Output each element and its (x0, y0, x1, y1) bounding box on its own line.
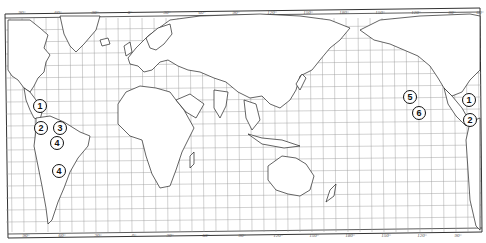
longitude-label: 120° (417, 233, 427, 238)
longitude-label: 90° (233, 10, 240, 15)
longitude-label: 120° (273, 233, 283, 238)
longitude-label: 60° (59, 233, 66, 238)
region-marker-1: 1 (33, 99, 47, 113)
longitude-label: 30° (92, 10, 99, 15)
india (214, 90, 228, 118)
longitude-label: 90° (455, 233, 462, 238)
north-america-east (360, 14, 480, 96)
new-zealand (326, 184, 336, 202)
longitude-label: 120° (411, 10, 421, 15)
longitude-label: 90° (449, 10, 456, 15)
coastlines (8, 14, 480, 230)
south-america-east (466, 118, 480, 230)
region-marker-4b: 4 (52, 164, 66, 178)
southeast-asia (244, 100, 260, 130)
madagascar (190, 152, 194, 168)
longitude-label: 30° (167, 233, 174, 238)
north-america (8, 20, 50, 92)
region-marker-6: 6 (412, 106, 426, 120)
longitude-label: 30° (95, 233, 102, 238)
region-marker-2: 2 (34, 121, 48, 135)
parallel-line (6, 169, 481, 174)
meridian-line (334, 18, 336, 232)
region-marker-3: 3 (53, 121, 67, 135)
longitude-label: 60° (55, 10, 62, 15)
longitude-label: 90° (239, 233, 246, 238)
longitude-label: 60° (203, 233, 210, 238)
longitude-label: 60° (477, 10, 484, 15)
longitude-label: 30° (164, 10, 171, 15)
parallel-line (6, 193, 481, 198)
parallel-line (6, 121, 481, 126)
longitude-label: 0° (128, 10, 133, 15)
region-marker-1b: 1 (462, 93, 476, 107)
british-isles (124, 42, 132, 56)
longitude-label: 90° (19, 10, 26, 15)
longitude-label: 180° (339, 10, 349, 15)
map-canvas (0, 0, 486, 243)
region-marker-4a: 4 (50, 136, 64, 150)
parallel-line (6, 109, 481, 114)
region-marker-2b: 2 (463, 113, 477, 127)
longitude-label: 120° (267, 10, 277, 15)
region-marker-5: 5 (403, 90, 417, 104)
parallel-line (6, 181, 481, 186)
longitude-label: 60° (199, 10, 206, 15)
iceland (100, 38, 110, 46)
longitude-label: 180° (345, 233, 355, 238)
australia (268, 156, 314, 196)
world-map: 90°60°30°0°30°60°90°120°150°180°150°120°… (0, 0, 486, 243)
longitude-label: 150° (381, 233, 391, 238)
meridian-line (346, 18, 348, 232)
parallel-line (6, 205, 481, 210)
longitude-label: 150° (309, 233, 319, 238)
longitude-label: 90° (23, 233, 30, 238)
longitude-label: 150° (375, 10, 385, 15)
longitude-label: 150° (303, 10, 313, 15)
indonesia (248, 134, 300, 148)
meridian-line (70, 18, 72, 232)
parallel-line (6, 217, 481, 222)
longitude-label: 0° (132, 233, 137, 238)
